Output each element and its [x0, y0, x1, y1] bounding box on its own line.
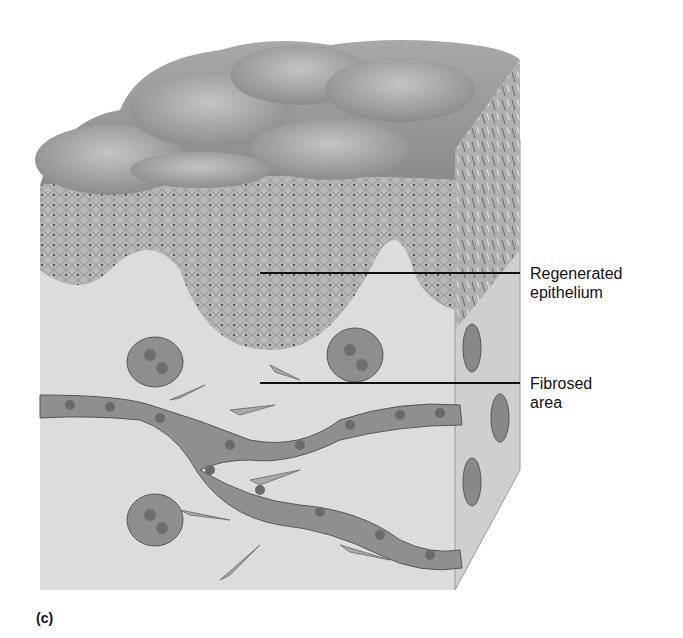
label-line: area	[530, 393, 592, 412]
tissue-block-illustration	[0, 0, 683, 638]
label-line: Regenerated	[530, 264, 623, 283]
label-regenerated-epithelium: Regenerated epithelium	[530, 264, 623, 302]
label-line: Fibrosed	[530, 374, 592, 393]
panel-label: (c)	[36, 610, 53, 626]
label-fibrosed-area: Fibrosed area	[530, 374, 592, 412]
label-line: epithelium	[530, 283, 623, 302]
